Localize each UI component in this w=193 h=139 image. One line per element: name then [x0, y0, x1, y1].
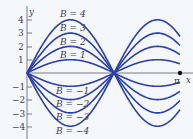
svg-text:−2: −2 — [12, 95, 25, 105]
svg-text:B = −1: B = −1 — [55, 86, 89, 96]
pi-label: π — [174, 76, 180, 86]
y-tick-labels: 4 3 2 1 −1 −2 −3 −4 — [12, 15, 26, 132]
sine-family-chart: y x 4 3 2 1 −1 −2 −3 −4 π B = 4 B = 3 B … — [0, 0, 193, 139]
svg-text:1: 1 — [18, 55, 24, 65]
svg-text:B = 1: B = 1 — [59, 50, 86, 60]
svg-text:B = −2: B = −2 — [55, 99, 89, 109]
y-axis-label: y — [28, 7, 34, 17]
curve-series — [27, 60, 180, 73]
x-axis-label: x — [186, 75, 191, 85]
svg-text:B = 3: B = 3 — [59, 23, 86, 33]
svg-text:4: 4 — [18, 15, 24, 25]
svg-text:−1: −1 — [12, 82, 25, 92]
svg-text:B = −3: B = −3 — [55, 112, 89, 122]
svg-text:−4: −4 — [12, 122, 26, 132]
svg-text:3: 3 — [18, 28, 24, 38]
pi-point — [178, 71, 182, 75]
svg-text:B = 2: B = 2 — [59, 37, 86, 47]
svg-text:−3: −3 — [12, 109, 26, 119]
svg-text:B = 4: B = 4 — [59, 9, 86, 19]
series-labels: B = 4 B = 3 B = 2 B = 1 B = −1 B = −2 B … — [55, 9, 89, 136]
svg-text:B = −4: B = −4 — [55, 126, 89, 136]
curve-series — [27, 73, 180, 86]
svg-text:2: 2 — [18, 42, 24, 52]
